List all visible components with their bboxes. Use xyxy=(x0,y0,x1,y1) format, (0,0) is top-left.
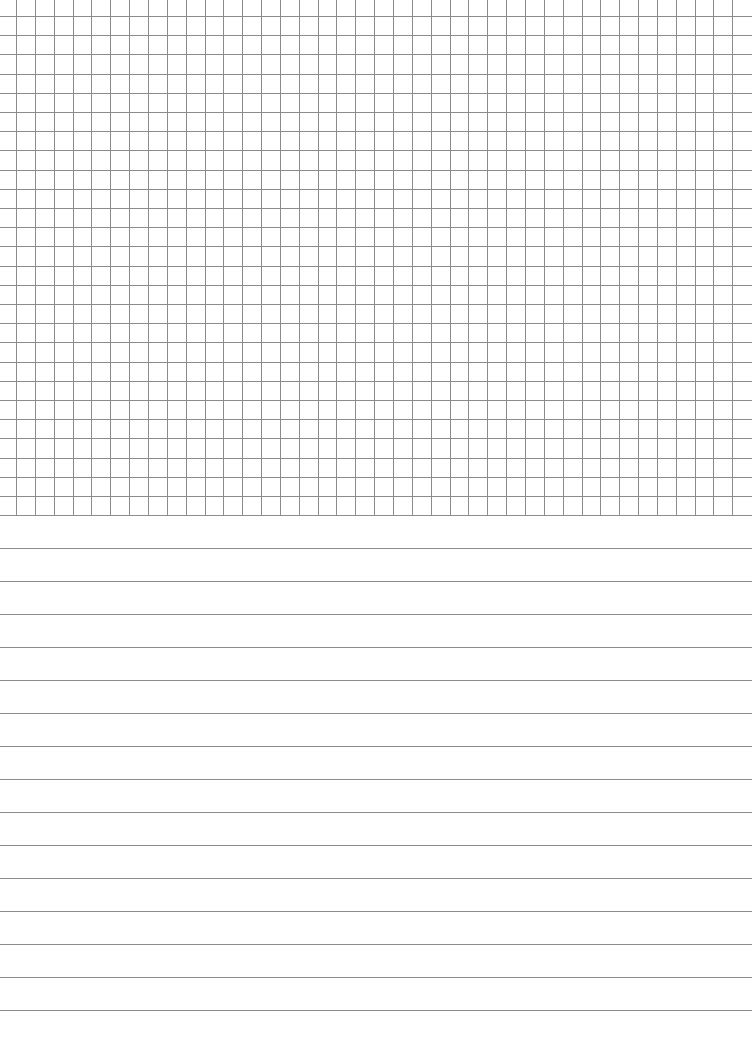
ruled-line xyxy=(0,713,752,714)
grid-horizontal-line xyxy=(0,246,752,247)
grid-horizontal-line xyxy=(0,131,752,132)
grid-horizontal-line xyxy=(0,35,752,36)
grid-horizontal-line xyxy=(0,362,752,363)
grid-horizontal-line xyxy=(0,16,752,17)
grid-horizontal-line xyxy=(0,266,752,267)
grid-horizontal-line xyxy=(0,74,752,75)
ruled-line xyxy=(0,911,752,912)
grid-horizontal-line xyxy=(0,515,752,516)
grid-horizontal-line xyxy=(0,112,752,113)
grid-horizontal-line xyxy=(0,227,752,228)
grid-horizontal-line xyxy=(0,458,752,459)
grid-horizontal-line xyxy=(0,304,752,305)
grid-horizontal-line xyxy=(0,381,752,382)
paper-sheet xyxy=(0,0,755,1052)
ruled-line xyxy=(0,680,752,681)
grid-horizontal-line xyxy=(0,323,752,324)
ruled-line xyxy=(0,812,752,813)
ruled-line xyxy=(0,647,752,648)
grid-horizontal-line xyxy=(0,496,752,497)
grid-horizontal-line xyxy=(0,150,752,151)
grid-horizontal-line xyxy=(0,419,752,420)
grid-horizontal-line xyxy=(0,170,752,171)
grid-horizontal-line xyxy=(0,54,752,55)
grid-horizontal-line xyxy=(0,285,752,286)
ruled-line xyxy=(0,548,752,549)
ruled-line xyxy=(0,1010,752,1011)
grid-horizontal-line xyxy=(0,93,752,94)
ruled-line xyxy=(0,845,752,846)
ruled-line xyxy=(0,581,752,582)
ruled-line xyxy=(0,746,752,747)
ruled-line xyxy=(0,779,752,780)
grid-horizontal-line xyxy=(0,438,752,439)
ruled-line xyxy=(0,614,752,615)
grid-horizontal-line xyxy=(0,208,752,209)
ruled-line xyxy=(0,878,752,879)
grid-horizontal-line xyxy=(0,400,752,401)
grid-horizontal-line xyxy=(0,342,752,343)
ruled-line xyxy=(0,977,752,978)
grid-horizontal-line xyxy=(0,189,752,190)
grid-horizontal-line xyxy=(0,477,752,478)
ruled-line xyxy=(0,944,752,945)
